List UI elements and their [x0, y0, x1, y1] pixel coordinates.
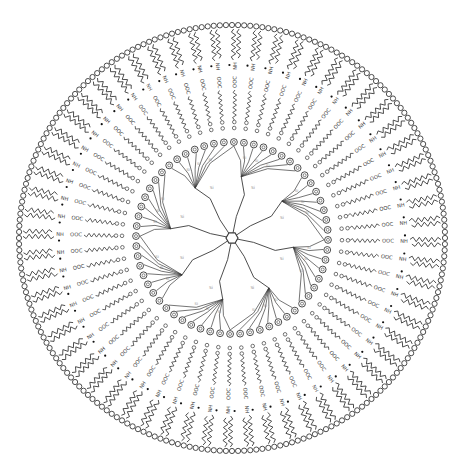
- spacer-chain: [333, 299, 359, 315]
- ester-linker: [264, 347, 268, 351]
- aromatic-ring: [275, 319, 282, 326]
- charge-dot: [113, 110, 115, 112]
- spacer-chain: [174, 102, 186, 130]
- charge-dot: [192, 68, 194, 70]
- head-bead: [17, 217, 22, 222]
- spacer-chain: [266, 351, 276, 380]
- head-bead: [21, 193, 26, 198]
- alkyl-tail: [36, 167, 63, 177]
- spacer-chain: [289, 341, 304, 367]
- head-bead: [65, 101, 70, 106]
- aromatic-ring: [291, 307, 298, 314]
- head-bead: [329, 424, 334, 429]
- silicon-label: Si: [300, 268, 303, 273]
- head-bead: [199, 25, 204, 30]
- head-bead: [193, 445, 198, 450]
- head-bead: [95, 400, 100, 405]
- head-bead: [158, 436, 163, 441]
- head-bead: [398, 105, 403, 110]
- charge-dot: [264, 67, 266, 69]
- ester-linker: [150, 161, 154, 165]
- spacer-chain: [147, 117, 164, 142]
- aromatic-ring: [266, 323, 273, 330]
- head-bead: [378, 83, 383, 88]
- head-bead: [284, 441, 289, 446]
- ammonium-label: NH: [267, 66, 275, 75]
- spacer-chain: [303, 120, 321, 144]
- carboxylate-label: OOC: [160, 372, 171, 386]
- ester-linker: [277, 137, 281, 141]
- carboxylate-label: OOC: [131, 355, 143, 368]
- head-bead: [289, 440, 294, 445]
- charge-dot: [142, 88, 144, 90]
- ester-linker: [187, 135, 191, 139]
- head-bead: [402, 361, 407, 366]
- charge-dot: [361, 351, 363, 353]
- head-bead: [386, 379, 391, 384]
- aromatic-ring: [156, 297, 163, 304]
- ammonium-label: NH: [162, 75, 171, 84]
- carboxylate-label: OOC: [375, 188, 388, 197]
- ammonium-label: NH: [80, 144, 90, 153]
- charge-dot: [388, 164, 390, 166]
- ester-linker: [126, 200, 130, 204]
- spacer-chain: [278, 347, 290, 375]
- ammonium-label: NH: [69, 300, 78, 309]
- ester-linker: [116, 258, 120, 262]
- alkyl-tail: [409, 216, 440, 223]
- ester-linker: [138, 166, 142, 170]
- ester-linker: [244, 127, 248, 131]
- ester-linker: [346, 239, 350, 243]
- head-bead: [187, 444, 192, 449]
- carboxylate-label: OOC: [70, 247, 83, 254]
- alkyl-tail: [82, 93, 103, 113]
- charge-dot: [287, 401, 289, 403]
- head-bead: [289, 31, 294, 36]
- head-bead: [440, 266, 445, 271]
- ester-linker: [134, 289, 138, 293]
- head-bead: [41, 136, 46, 141]
- head-bead: [146, 432, 151, 437]
- spacer-chain: [102, 295, 128, 310]
- carboxylate-label: OOC: [273, 381, 282, 394]
- charge-dot: [101, 123, 103, 125]
- head-bead: [217, 448, 222, 453]
- spacer-chain: [135, 126, 155, 149]
- ammonium-label: NH: [65, 177, 74, 185]
- head-bead: [301, 436, 306, 441]
- alkyl-tail: [275, 35, 283, 63]
- silicon-label: Si: [250, 285, 254, 290]
- head-bead: [114, 56, 119, 61]
- ammonium-label: NH: [392, 183, 401, 191]
- head-bead: [27, 301, 32, 306]
- aromatic-ring: [287, 158, 294, 165]
- siloxane-branch: [157, 275, 183, 291]
- ester-linker: [123, 281, 127, 285]
- siloxane-branch: [282, 201, 324, 240]
- ester-linker: [197, 125, 201, 129]
- ester-linker: [310, 152, 314, 156]
- ester-linker: [330, 283, 334, 287]
- charge-dot: [66, 186, 68, 188]
- carboxylate-label: OOC: [231, 76, 237, 88]
- alkyl-tail: [146, 400, 160, 428]
- head-bead: [23, 290, 28, 295]
- head-bead: [17, 254, 22, 259]
- carboxylate-label: OOC: [216, 76, 223, 89]
- silicon-label: Si: [307, 245, 310, 250]
- head-bead: [441, 211, 446, 216]
- ammonium-label: NH: [63, 283, 72, 291]
- head-bead: [394, 370, 399, 375]
- charge-dot: [269, 406, 271, 408]
- alkyl-tail: [343, 73, 361, 96]
- alkyl-tail: [248, 415, 255, 446]
- head-bead: [266, 445, 271, 450]
- ammonium-label: NH: [197, 65, 204, 74]
- siloxane-branch: [219, 299, 222, 329]
- siloxane-branch: [223, 299, 230, 330]
- ester-linker: [337, 191, 341, 195]
- head-bead: [426, 318, 431, 323]
- ammonium-label: NH: [56, 231, 64, 237]
- head-bead: [345, 415, 350, 420]
- head-bead: [47, 125, 52, 130]
